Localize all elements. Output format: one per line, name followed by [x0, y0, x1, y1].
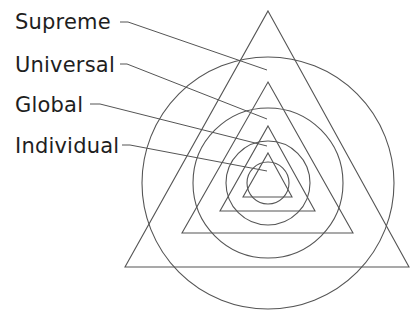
triangle-universal [182, 82, 353, 233]
leader-line-supreme [120, 22, 267, 70]
triangle-supreme [125, 11, 409, 267]
triangle-individual [243, 153, 292, 197]
circles-group [142, 57, 394, 309]
triangle-global [220, 126, 315, 211]
label-individual: Individual [15, 134, 119, 158]
label-global: Global [15, 93, 83, 117]
label-universal: Universal [15, 53, 115, 77]
leader-line-universal [120, 64, 267, 119]
label-supreme: Supreme [15, 10, 111, 34]
nested-levels-diagram: Supreme Universal Global Individual [0, 0, 418, 322]
triangles-group [125, 11, 409, 267]
labels-group: Supreme Universal Global Individual [15, 10, 119, 158]
circle-universal [193, 108, 343, 258]
circle-supreme [142, 57, 394, 309]
